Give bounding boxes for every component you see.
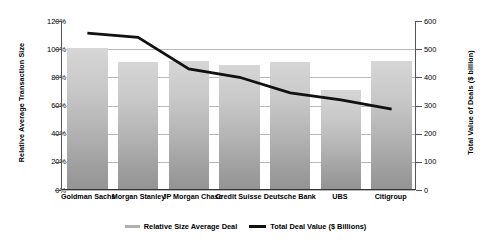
legend-label-line: Total Deal Value ($ Billions): [270, 222, 366, 231]
legend-item-bar: Relative Size Average Deal: [125, 222, 238, 231]
y2-tick-label-0: 0: [424, 187, 428, 194]
bar-swatch-icon: [125, 225, 140, 228]
gridline: [62, 190, 415, 191]
line-swatch-icon: [249, 225, 266, 228]
x-label-citigroup: Citigroup: [365, 193, 416, 201]
x-label-morgan-stanley: Morgan Stanley: [112, 193, 163, 201]
x-label-goldman-sachs: Goldman Sachs: [61, 193, 112, 201]
y2-tick-label-600: 600: [424, 18, 436, 25]
y2-tick-label-500: 500: [424, 46, 436, 53]
x-label-jp-morgan-chase: JP Morgan Chase: [162, 193, 213, 201]
x-label-credit-suisse: Credit Suisse: [213, 193, 264, 201]
y2-tick-label-300: 300: [424, 102, 436, 109]
y-tick-mark: [55, 190, 61, 191]
chart-legend: Relative Size Average Deal Total Deal Va…: [0, 222, 491, 231]
y2-tick-label-100: 100: [424, 158, 436, 165]
y2-tick-mark: [416, 190, 422, 191]
x-label-deutsche-bank: Deutsche Bank: [264, 193, 315, 201]
line-series: [62, 21, 417, 190]
y-axis-left-title: Relative Average Transaction Size: [17, 18, 26, 188]
y2-tick-label-400: 400: [424, 74, 436, 81]
legend-item-line: Total Deal Value ($ Billions): [249, 222, 366, 231]
legend-label-bar: Relative Size Average Deal: [144, 222, 238, 231]
x-label-ubs: UBS: [315, 193, 366, 201]
chart-container: Relative Average Transaction Size Total …: [0, 0, 491, 245]
plot-area: [61, 21, 416, 190]
y2-tick-label-200: 200: [424, 130, 436, 137]
y-axis-right-title: Total Value of Deals ($ billion): [466, 18, 475, 188]
